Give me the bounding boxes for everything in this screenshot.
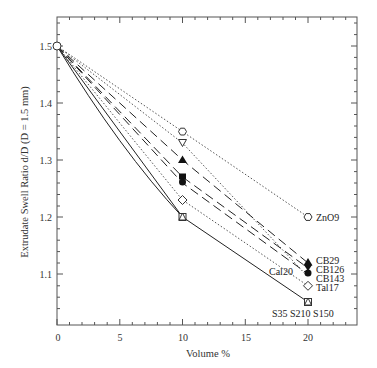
circle-filled-marker-icon (179, 179, 186, 186)
triangle-up-filled-marker-icon (178, 156, 187, 164)
circle-filled-marker-icon (305, 270, 312, 277)
x-tick-label: 20 (303, 332, 313, 343)
x-tick-label: 10 (178, 332, 188, 343)
x-tick-label: 5 (118, 332, 123, 343)
x-axis-ticks (57, 17, 346, 325)
y-tick-label: 1.4 (40, 98, 53, 109)
x-tick-label: 0 (56, 332, 61, 343)
triangle-up-filled-marker-icon (304, 258, 313, 266)
y-tick-label: 1.3 (40, 155, 53, 166)
label-zno9: ZnO9 (316, 212, 339, 223)
x-tick-labels: 0 5 10 15 20 (56, 332, 314, 343)
x-tick-label: 15 (241, 332, 251, 343)
y-tick-label: 1.5 (40, 41, 53, 52)
y-tick-label: 1.1 (40, 269, 53, 280)
plot-frame (57, 17, 357, 325)
y-axis-ticks (57, 23, 357, 309)
chart: 0 5 10 15 20 1.5 1.4 1.3 1.2 1.1 Volume … (0, 0, 377, 368)
label-cal20: Cal20 (269, 266, 293, 277)
y-tick-labels: 1.5 1.4 1.3 1.2 1.1 (40, 41, 53, 280)
label-silica: S35 S210 S150 (272, 308, 334, 319)
diamond-open-marker-icon (178, 196, 187, 205)
hexagon-marker-icon (179, 128, 187, 135)
label-tal17: Tal17 (316, 282, 339, 293)
diamond-open-marker-icon (304, 281, 313, 290)
y-axis-title: Extrudate Swell Ratio d/D (D = 1.5 mm) (19, 86, 31, 258)
series-line-cb29 (57, 46, 308, 263)
series-line-tal17 (57, 46, 308, 286)
y-tick-label: 1.2 (40, 212, 53, 223)
x-axis-title: Volume % (186, 348, 230, 359)
hexagon-marker-icon (304, 214, 312, 221)
origin-marker-icon (53, 42, 61, 50)
